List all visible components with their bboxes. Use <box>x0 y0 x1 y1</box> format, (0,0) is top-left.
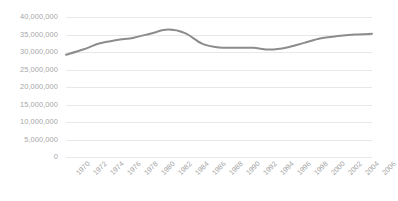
y-axis: 05,000,00010,000,00015,000,00020,000,000… <box>0 17 62 157</box>
x-axis-tick-label: 1990 <box>245 160 262 177</box>
y-axis-tick-label: 25,000,000 <box>20 66 58 74</box>
x-axis-tick-label: 2006 <box>381 160 398 177</box>
series-line-layer <box>66 17 372 157</box>
y-axis-tick-label: 35,000,000 <box>20 31 58 39</box>
x-axis-tick-label: 2002 <box>347 160 364 177</box>
x-axis-tick-label: 1972 <box>92 160 109 177</box>
x-axis-tick-label: 1980 <box>160 160 177 177</box>
x-axis-tick-label: 1974 <box>109 160 126 177</box>
x-axis-tick-label: 1998 <box>313 160 330 177</box>
x-axis-tick-label: 1984 <box>194 160 211 177</box>
x-axis: 1970197219741976197819801982198419861988… <box>66 158 372 201</box>
x-axis-tick-label: 2004 <box>364 160 381 177</box>
x-axis-tick-label: 1988 <box>228 160 245 177</box>
x-axis-tick-label: 1996 <box>296 160 313 177</box>
x-axis-tick-label: 1970 <box>75 160 92 177</box>
x-axis-tick-label: 1994 <box>279 160 296 177</box>
x-axis-tick-label: 1982 <box>177 160 194 177</box>
x-axis-tick-label: 1986 <box>211 160 228 177</box>
y-axis-tick-label: 5,000,000 <box>24 136 58 144</box>
series-line-1 <box>66 30 372 55</box>
x-axis-tick-label: 2000 <box>330 160 347 177</box>
x-axis-tick-label: 1976 <box>126 160 143 177</box>
y-axis-tick-label: 10,000,000 <box>20 118 58 126</box>
y-axis-tick-label: 0 <box>54 153 58 161</box>
x-axis-tick-label: 1978 <box>143 160 160 177</box>
x-axis-tick-label: 1992 <box>262 160 279 177</box>
y-axis-tick-label: 40,000,000 <box>20 13 58 21</box>
plot-area <box>66 17 372 157</box>
y-axis-tick-label: 20,000,000 <box>20 83 58 91</box>
y-axis-tick-label: 30,000,000 <box>20 48 58 56</box>
y-axis-tick-label: 15,000,000 <box>20 101 58 109</box>
